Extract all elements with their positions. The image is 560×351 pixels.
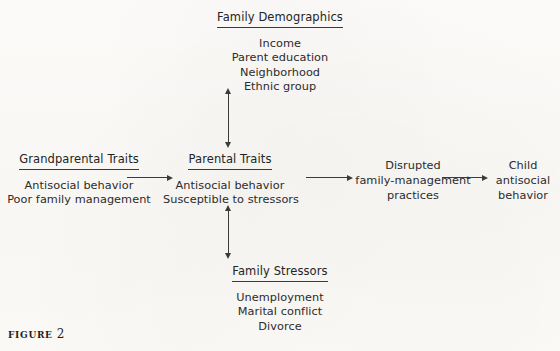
- list-item: Child: [487, 158, 559, 173]
- list-item: Parent education: [163, 51, 397, 65]
- parental-traits-items: Antisocial behavior Susceptible to stres…: [163, 179, 297, 208]
- node-child-outcome: Child antisocial behavior: [487, 158, 559, 203]
- arrow-parental-to-disrupted: [306, 173, 353, 182]
- list-item: family-management: [352, 173, 474, 188]
- list-item: Poor family management: [4, 193, 154, 207]
- arrow-demographics-parental: [224, 88, 233, 148]
- figure-diagram: Family Demographics Income Parent educat…: [0, 0, 560, 351]
- grandparental-traits-items: Antisocial behavior Poor family manageme…: [4, 179, 154, 208]
- list-item: Antisocial behavior: [163, 179, 297, 193]
- list-item: behavior: [487, 188, 559, 203]
- list-item: Antisocial behavior: [4, 179, 154, 193]
- list-item: Divorce: [163, 320, 397, 334]
- child-outcome-items: Child antisocial behavior: [487, 158, 559, 203]
- node-family-demographics: Family Demographics Income Parent educat…: [163, 6, 397, 95]
- grandparental-traits-heading-wrap: Grandparental Traits: [4, 148, 154, 170]
- family-stressors-items: Unemployment Marital conflict Divorce: [163, 291, 397, 334]
- parental-traits-heading: Parental Traits: [188, 152, 271, 170]
- list-item: Marital conflict: [163, 305, 397, 319]
- figure-caption-label: FIGURE: [8, 330, 53, 340]
- arrow-head-down-icon: [225, 253, 231, 259]
- list-item: Susceptible to stressors: [163, 193, 297, 207]
- list-item: Unemployment: [163, 291, 397, 305]
- disrupted-practices-items: Disrupted family-management practices: [352, 158, 474, 203]
- list-item: antisocial: [487, 173, 559, 188]
- family-demographics-items: Income Parent education Neighborhood Eth…: [163, 37, 397, 95]
- parental-traits-heading-wrap: Parental Traits: [163, 148, 297, 170]
- list-item: Neighborhood: [163, 66, 397, 80]
- list-item: practices: [352, 188, 474, 203]
- arrow-shaft: [228, 210, 229, 254]
- figure-caption-number: 2: [57, 327, 65, 341]
- grandparental-traits-heading: Grandparental Traits: [19, 152, 139, 170]
- node-parental-traits: Parental Traits Antisocial behavior Susc…: [163, 148, 297, 208]
- list-item: Income: [163, 37, 397, 51]
- family-demographics-heading-wrap: Family Demographics: [163, 6, 397, 28]
- node-disrupted-practices: Disrupted family-management practices: [352, 158, 474, 203]
- arrow-parental-stressors: [224, 205, 233, 259]
- arrow-shaft: [306, 177, 348, 178]
- list-item: Ethnic group: [163, 80, 397, 94]
- family-stressors-heading-wrap: Family Stressors: [163, 260, 397, 282]
- family-demographics-heading: Family Demographics: [217, 10, 343, 28]
- list-item: Disrupted: [352, 158, 474, 173]
- figure-caption: FIGURE2: [8, 327, 65, 341]
- node-family-stressors: Family Stressors Unemployment Marital co…: [163, 260, 397, 334]
- node-grandparental-traits: Grandparental Traits Antisocial behavior…: [4, 148, 154, 208]
- family-stressors-heading: Family Stressors: [232, 264, 327, 282]
- arrow-shaft: [228, 93, 229, 143]
